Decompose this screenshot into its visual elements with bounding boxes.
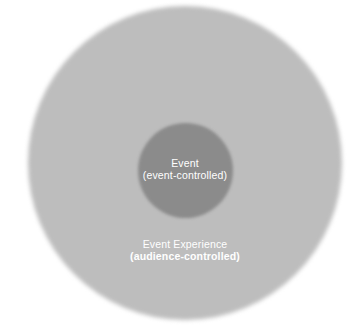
diagram-canvas: Event (event-controlled) Event Experienc… xyxy=(0,0,361,328)
inner-circle-label: Event (event-controlled) xyxy=(120,157,250,182)
inner-circle-label-primary: Event xyxy=(120,157,250,169)
outer-circle-label-primary: Event Experience xyxy=(105,238,265,250)
inner-circle-label-secondary: (event-controlled) xyxy=(120,169,250,181)
outer-circle-label-secondary: (audience-controlled) xyxy=(105,250,265,262)
outer-circle-label: Event Experience (audience-controlled) xyxy=(105,238,265,263)
